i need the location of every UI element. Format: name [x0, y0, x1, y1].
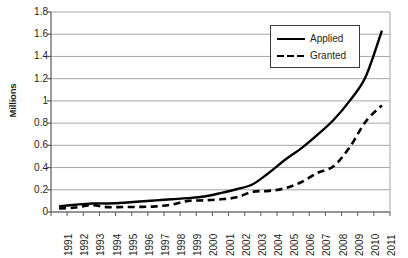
x-tick-label: 1993: [96, 234, 106, 256]
x-tick-label: 2009: [355, 234, 365, 256]
x-tick-label: 2005: [290, 234, 300, 256]
legend-item-granted: Granted: [276, 47, 354, 64]
legend-label-granted: Granted: [306, 51, 346, 61]
legend-label-applied: Applied: [306, 34, 343, 44]
x-tick-label: 2002: [242, 234, 252, 256]
x-tick-label: 1998: [177, 234, 187, 256]
x-tick-label: 2000: [209, 234, 219, 256]
chart-legend: Applied Granted: [270, 25, 360, 68]
x-tick-label: 2011: [387, 234, 397, 256]
legend-item-applied: Applied: [276, 30, 354, 47]
x-tick-label: 2008: [339, 234, 349, 256]
x-tick-label: 1997: [161, 234, 171, 256]
x-tick-label: 2001: [226, 234, 236, 256]
x-tick-label: 1996: [145, 234, 155, 256]
x-tick-label: 1999: [193, 234, 203, 256]
x-tick-label: 2010: [371, 234, 381, 256]
x-tick-label: 2007: [322, 234, 332, 256]
line-chart: Millions 1.81.61.41.210.80.60.40.20 1991…: [0, 0, 408, 258]
x-tick-label: 2004: [274, 234, 284, 256]
x-tick-label: 2006: [306, 234, 316, 256]
legend-swatch-dashed-icon: [276, 51, 306, 61]
x-tick-label: 1994: [113, 234, 123, 256]
legend-swatch-solid-icon: [276, 34, 306, 44]
x-tick-label: 1992: [80, 234, 90, 256]
x-tick-label: 1991: [64, 234, 74, 256]
x-tick-label: 1995: [129, 234, 139, 256]
x-tick-label: 2003: [258, 234, 268, 256]
